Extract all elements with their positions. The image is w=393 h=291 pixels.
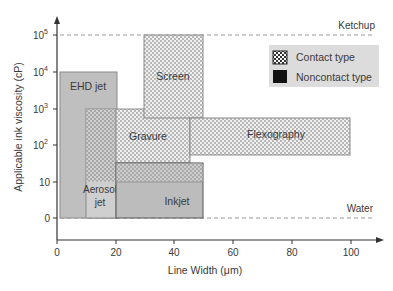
svg-text:0: 0	[54, 247, 60, 258]
legend-noncontact-swatch	[273, 70, 287, 83]
ketchup-label: Ketchup	[338, 20, 375, 31]
viscosity-line-width-chart: Ketchup Water EHD jet Aerosol jet Gravur…	[0, 0, 393, 291]
svg-text:105: 105	[33, 28, 48, 41]
svg-text:104: 104	[33, 65, 48, 78]
x-ticks	[57, 240, 351, 244]
svg-text:102: 102	[33, 138, 48, 151]
flexography-label: Flexography	[247, 128, 306, 140]
y-axis-arrow	[54, 16, 60, 24]
x-axis-label: Line Width (μm)	[168, 264, 242, 276]
aerosol-jet-label-2: jet	[94, 197, 106, 208]
legend-contact-label: Contact type	[296, 51, 355, 63]
legend-noncontact-label: Noncontact type	[296, 71, 372, 83]
legend-contact-swatch	[273, 51, 287, 64]
inkjet-label: Inkjet	[164, 195, 189, 207]
gravure-label: Gravure	[129, 130, 167, 142]
aerosol-jet-label-1: Aerosol	[83, 184, 117, 195]
svg-text:40: 40	[168, 247, 180, 258]
svg-text:0: 0	[44, 213, 50, 224]
svg-text:10: 10	[39, 177, 51, 188]
ehd-jet-label: EHD jet	[70, 80, 106, 92]
svg-text:100: 100	[343, 247, 360, 258]
x-axis-arrow	[376, 237, 384, 243]
x-tick-labels: 0 20 40 60 80 100	[54, 247, 360, 258]
inkjet-overlap-band	[117, 164, 203, 182]
y-tick-labels: 105 104 103 102 10 0	[33, 28, 50, 224]
aerosol-jet-hatch	[87, 110, 116, 182]
svg-text:60: 60	[227, 247, 239, 258]
svg-text:80: 80	[286, 247, 298, 258]
svg-text:20: 20	[110, 247, 122, 258]
y-axis-label: Applicable ink viscosity (cP)	[12, 62, 24, 192]
svg-text:103: 103	[33, 102, 48, 115]
legend: Contact type Noncontact type	[269, 45, 379, 87]
screen-label: Screen	[156, 70, 189, 82]
water-label: Water	[347, 203, 374, 214]
